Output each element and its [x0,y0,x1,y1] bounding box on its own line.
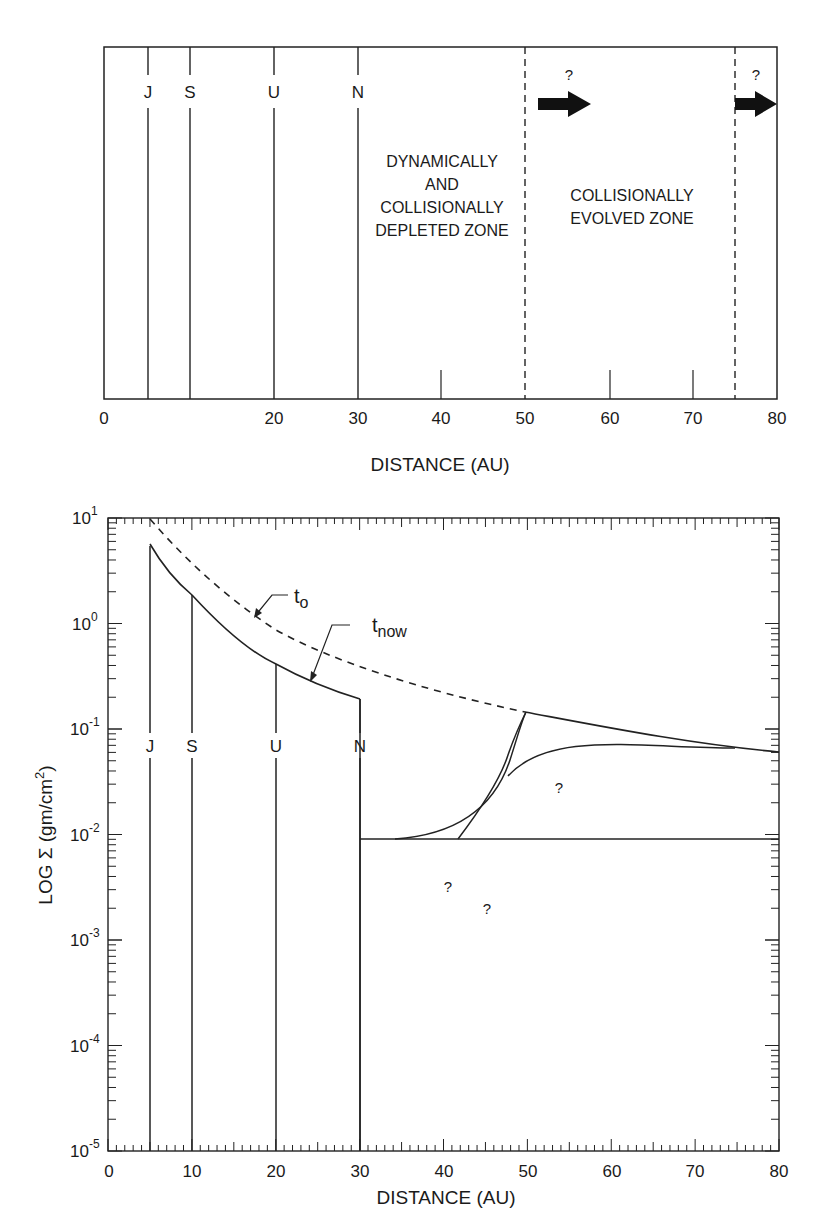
bottom-y-axis-title: LOG Σ (gm/cm2) [32,765,56,904]
svg-text:40: 40 [435,1162,454,1181]
svg-text:101: 101 [72,504,98,528]
svg-text:DEPLETED ZONE: DEPLETED ZONE [375,222,508,239]
top-planet-label-s: S [184,83,195,102]
top-panel: J S U N DYNAMICALLY AND COLLISIONALLY DE… [99,47,786,475]
bottom-x-axis-title: DISTANCE (AU) [377,1187,516,1208]
svg-text:80: 80 [768,409,787,428]
question-label-b: ? [483,900,491,917]
svg-text:50: 50 [516,409,535,428]
svg-text:COLLISIONALLY: COLLISIONALLY [380,199,504,216]
evolved-zone-label: COLLISIONALLY EVOLVED ZONE [570,187,694,227]
svg-text:80: 80 [770,1162,789,1181]
question-label-a: ? [444,878,452,895]
bottom-y-tick-labels: 101 100 10-1 10-2 10-3 10-4 10-5 [70,504,100,1161]
svg-text:10-3: 10-3 [70,926,100,950]
bottom-planet-label-u: U [270,737,282,756]
svg-text:20: 20 [265,409,284,428]
svg-text:COLLISIONALLY: COLLISIONALLY [570,187,694,204]
top-x-axis-title: DISTANCE (AU) [371,454,510,475]
svg-text:100: 100 [72,610,98,634]
question-label-c: ? [555,779,563,796]
bottom-x-tick-labels: 0 10 20 30 40 50 60 70 80 [104,1162,788,1181]
bottom-planet-label-j: J [146,737,155,756]
figure: J S U N DYNAMICALLY AND COLLISIONALLY DE… [0,0,824,1214]
question-curve-a [395,712,526,839]
svg-text:0: 0 [104,1162,113,1181]
svg-text:10: 10 [183,1162,202,1181]
bottom-planet-lines [150,546,360,1151]
svg-text:30: 30 [351,1162,370,1181]
bottom-panel: J S U N ? ? ? to tnow [32,504,788,1208]
svg-text:AND: AND [425,176,459,193]
svg-text:10-4: 10-4 [70,1032,100,1056]
top-planet-lines [148,47,358,399]
tnow-label: tnow [372,614,407,640]
t0-label: to [294,585,309,611]
arrow-question-2: ? [752,66,760,83]
top-planet-label-j: J [144,83,153,102]
svg-text:60: 60 [601,409,620,428]
svg-text:20: 20 [267,1162,286,1181]
svg-text:30: 30 [349,409,368,428]
svg-text:50: 50 [519,1162,538,1181]
svg-text:70: 70 [686,1162,705,1181]
top-x-tick-labels: 0 20 30 40 50 60 70 80 [99,409,786,428]
svg-text:10-2: 10-2 [70,821,100,845]
top-planet-label-u: U [268,83,280,102]
svg-text:60: 60 [603,1162,622,1181]
arrow-right-icon [538,91,591,117]
question-curve-c [508,745,735,776]
svg-text:70: 70 [684,409,703,428]
arrow-question-1: ? [565,66,573,83]
top-planet-label-n: N [352,83,364,102]
svg-text:DYNAMICALLY: DYNAMICALLY [386,153,498,170]
svg-text:10-5: 10-5 [70,1137,100,1161]
depleted-zone-label: DYNAMICALLY AND COLLISIONALLY DEPLETED Z… [375,153,508,239]
tnow-leader [311,625,350,680]
svg-text:EVOLVED ZONE: EVOLVED ZONE [570,210,693,227]
svg-text:0: 0 [99,409,108,428]
bottom-planet-label-s: S [186,737,197,756]
svg-text:10-1: 10-1 [70,715,100,739]
tnow-curve [150,544,360,699]
question-curve-b [458,712,526,839]
arrow-right-icon [735,91,777,117]
t0-curve [150,519,525,712]
top-minor-ticks [441,370,693,399]
svg-text:40: 40 [432,409,451,428]
